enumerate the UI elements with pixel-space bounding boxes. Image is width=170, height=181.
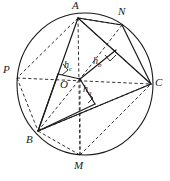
side-BC: [38, 84, 151, 131]
altitude-label-ha: ha: [83, 84, 92, 97]
vertex-label-N: N: [118, 6, 125, 17]
chord-B-to-O: [38, 79, 80, 131]
vertex-label-B: B: [26, 134, 33, 145]
vertex-label-M: M: [74, 160, 83, 171]
geometry-figure: A N C M B P O ha hb hc: [0, 0, 170, 181]
center-point-O: [79, 78, 82, 81]
altitude-label-hc: hc: [64, 60, 72, 73]
center-label-O: O: [60, 79, 68, 90]
hc-subscript: c: [69, 65, 72, 73]
vertex-label-P: P: [3, 64, 10, 75]
altitude-label-hb: hb: [93, 56, 102, 69]
chord-B-to-M: [38, 131, 80, 155]
vertex-label-C: C: [155, 77, 162, 88]
vertex-label-A: A: [72, 0, 79, 11]
hb-subscript: b: [98, 61, 102, 69]
ha-subscript: a: [88, 89, 92, 97]
